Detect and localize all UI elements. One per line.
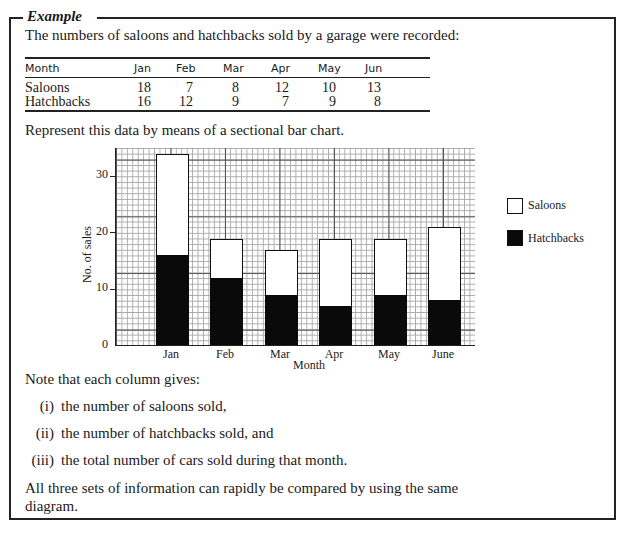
cell-value: 16 [127,95,151,109]
bar-feb-hatchbacks [210,278,243,345]
table-top-rule [25,57,430,59]
y-tick-label: 10 [88,280,108,295]
cell-value: 7 [265,95,289,109]
list-item-text: the number of hatchbacks sold, and [61,425,273,442]
bar-apr-hatchbacks [319,306,352,345]
table-header-mar: Mar [223,63,244,75]
cell-value: 10 [312,81,336,95]
cell-value: 12 [265,81,289,95]
cell-value: 9 [312,95,336,109]
chart-plot-area [115,148,475,346]
table-header-apr: Apr [271,63,290,75]
closing-line-1: All three sets of information can rapidl… [25,479,458,497]
intro-text: The numbers of saloons and hatchbacks so… [25,27,459,44]
x-tick-label: June [423,347,463,362]
list-marker: (iii) [28,452,54,469]
y-tick-label: 20 [88,224,108,239]
cell-value: 12 [169,95,193,109]
box-top-border-right [97,17,616,19]
y-tick-label: 30 [88,167,108,182]
table-header-month: Month [25,63,59,75]
legend-swatch-saloons [507,198,523,214]
bar-feb-saloons [210,239,243,279]
table-header-rule [25,77,430,78]
bar-apr-saloons [319,239,352,307]
bar-jan-hatchbacks [156,255,189,345]
row-label: Hatchbacks [25,95,90,109]
cell-value: 7 [169,81,193,95]
example-title: Example [27,8,82,25]
cell-value: 13 [357,81,381,95]
cell-value: 8 [215,81,239,95]
table-header-may: May [318,63,341,75]
x-axis-title: Month [293,358,325,373]
list-marker: (ii) [28,425,54,442]
list-item-text: the number of saloons sold, [61,398,226,415]
x-tick-label: May [369,347,409,362]
y-tick-label: 0 [88,337,108,352]
row-label: Saloons [25,81,69,95]
bar-june-hatchbacks [428,300,461,345]
x-tick-label: Jan [151,347,191,362]
bar-june-saloons [428,227,461,301]
legend-label-saloons: Saloons [528,198,566,213]
table-bottom-rule [25,110,430,112]
bar-mar-saloons [265,250,298,296]
table-header-jun: Jun [365,63,382,75]
closing-line-2: diagram. [25,497,78,515]
bar-jan-saloons [156,154,189,256]
cell-value: 18 [127,81,151,95]
bar-may-saloons [374,239,407,296]
list-item-text: the total number of cars sold during tha… [61,452,347,469]
list-marker: (i) [28,398,54,415]
bar-mar-hatchbacks [265,295,298,345]
table-header-jan: Jan [134,63,151,75]
cell-value: 9 [215,95,239,109]
legend-swatch-hatchbacks [507,230,523,246]
cell-value: 8 [357,95,381,109]
box-top-border-left [9,17,23,19]
legend-label-hatchbacks: Hatchbacks [528,231,584,246]
instruction-text: Represent this data by means of a sectio… [25,122,344,139]
table-header-feb: Feb [176,63,195,75]
bar-may-hatchbacks [374,295,407,345]
notes-lead: Note that each column gives: [25,370,200,388]
x-tick-label: Feb [205,347,245,362]
